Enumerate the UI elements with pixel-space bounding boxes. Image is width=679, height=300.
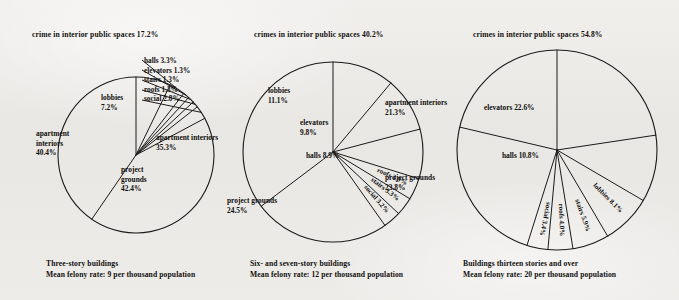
caption-three-story: Three-story buildings Mean felony rate: … [46,259,195,280]
caption-line1-thirteen-plus-story: Buildings thirteen stories and over [463,259,616,270]
pie-chart-thirteen-plus-story: elevators 22.6%halls 10.8%lobbies 8.1%st… [455,0,679,255]
slice-label-apartment interiors: apartmentinteriors40.4% [36,129,70,157]
callout-social: social 2.8% [144,94,190,104]
pie-chart-six-seven-story: lobbies11.1%elevators9.8%halls 8.9%roofs… [240,0,455,252]
caption-thirteen-plus-story: Buildings thirteen stories and over Mean… [463,259,616,280]
callout-elevators: elevators 1.3% [144,66,190,76]
pie-panel-thirteen-plus-story: crimes in interior public spaces 54.8% e… [455,0,679,300]
slice-label-lobbies: lobbies11.1% [268,86,290,105]
caption-line1-three-story: Three-story buildings [46,259,195,270]
slice-label-stairs: stairs 5.9% [573,198,592,233]
slice-label-project grounds: projectgrounds42.4% [121,165,147,193]
caption-line2-thirteen-plus-story: Mean felony rate: 20 per thousand popula… [463,270,616,281]
pie-chart-three-story: lobbies7.2%projectgrounds42.4%apartmenti… [0,0,240,250]
slice-label-roofs: roofs 4.0% [557,203,566,236]
callout-roofs: roofs 1.3% [144,85,190,95]
slice-label-halls: halls 8.9% [306,151,339,160]
callout-halls: halls 3.3% [144,56,190,66]
figure-three-pie-charts: crime in interior public spaces 17.2% lo… [0,0,679,300]
caption-line1-six-seven-story: Six- and seven-story buildings [250,259,403,270]
pie-panel-three-story: crime in interior public spaces 17.2% lo… [0,0,240,300]
slice-label-elevators: elevators 22.6% [484,103,535,112]
slice-label-elevators: elevators9.8% [300,118,328,137]
callout-labels-three-story: halls 3.3% elevators 1.3% stairs 1.3% ro… [144,56,190,104]
caption-six-seven-story: Six- and seven-story buildings Mean felo… [250,259,403,280]
slice-label-halls: halls 10.8% [502,151,539,160]
slice-label-lobbies: lobbies7.2% [101,93,123,112]
pie-panel-six-seven-story: crimes in interior public spaces 40.2% l… [240,0,455,300]
caption-line2-six-seven-story: Mean felony rate: 12 per thousand popula… [250,270,403,281]
slice-label-project grounds: project grounds24.5% [227,196,277,215]
callout-stairs: stairs 1.3% [144,75,190,85]
caption-line2-three-story: Mean felony rate: 9 per thousand populat… [46,270,195,281]
